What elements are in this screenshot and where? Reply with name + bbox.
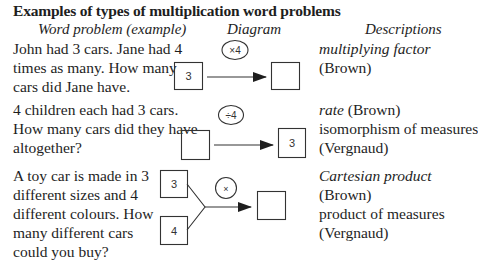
operator-label: ÷4 (225, 110, 236, 121)
operator-label: × (223, 184, 228, 194)
top-box-value: 3 (171, 178, 177, 190)
bottom-box-value: 4 (171, 225, 177, 237)
right-box (258, 192, 286, 220)
junction-lines (187, 184, 205, 230)
diagram-cartesian (161, 171, 286, 245)
right-box (272, 63, 300, 90)
left-box (182, 131, 210, 160)
right-box-value: 3 (289, 137, 295, 149)
diagram-rate (182, 106, 306, 160)
left-box-value: 3 (185, 70, 191, 82)
operator-label: ×4 (229, 45, 241, 56)
